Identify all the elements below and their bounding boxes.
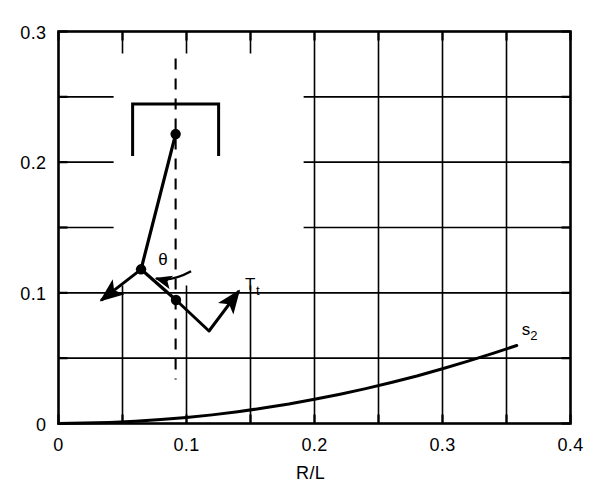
pivot-node — [170, 129, 180, 139]
x-tick-label: 0.1 — [173, 435, 199, 455]
x-axis-title: R/L — [296, 463, 325, 483]
x-tick-label: 0.4 — [557, 435, 583, 455]
y-tick-label: 0 — [36, 415, 46, 435]
y-tick-label: 0.1 — [20, 284, 46, 304]
theta-label: θ — [158, 250, 167, 269]
chart-canvas: 00.10.20.30.400.10.20.3R/Ls2θTt — [0, 0, 600, 504]
chart-figure: 00.10.20.30.400.10.20.3R/Ls2θTt — [0, 0, 600, 504]
inset-background-mask — [114, 54, 304, 286]
y-tick-label: 0.2 — [20, 153, 46, 173]
x-tick-label: 0 — [53, 435, 63, 455]
x-tick-label: 0.3 — [429, 435, 455, 455]
y-tick-label: 0.3 — [20, 23, 46, 43]
x-tick-label: 0.2 — [301, 435, 327, 455]
lower-node — [171, 295, 181, 305]
mid-node — [136, 264, 146, 274]
